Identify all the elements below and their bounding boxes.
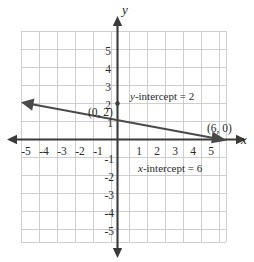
y-intercept-annotation: y-intercept = 2 [129, 90, 194, 102]
y-intercept-point-label: (0, 2) [88, 106, 113, 119]
x-tick-label-5: 5 [208, 145, 214, 157]
y-tick-label--5: -5 [104, 225, 114, 237]
x-intercept-annotation: x-intercept = 6 [137, 162, 203, 174]
x-tick-label-4: 4 [190, 145, 196, 157]
x-tick-label--3: -3 [57, 145, 67, 157]
y-axis-arrow-down [113, 248, 122, 258]
y-tick-label-3: 3 [105, 81, 111, 93]
graph-canvas: y x -5 -4 -3 -2 -1 1 2 3 4 5 5 4 3 2 1 -… [0, 0, 254, 262]
x-tick-label-3: 3 [172, 145, 178, 157]
y-axis-arrow-up [113, 16, 122, 26]
y-tick-label--2: -2 [104, 171, 114, 183]
x-intercept-annotation-rest: -intercept = 6 [143, 162, 203, 174]
x-tick-label-1: 1 [136, 145, 142, 157]
coordinate-plane-figure: y x -5 -4 -3 -2 -1 1 2 3 4 5 5 4 3 2 1 -… [0, 0, 254, 262]
y-tick-label--1: -1 [104, 153, 114, 165]
y-tick-label--4: -4 [104, 207, 114, 219]
x-axis-label: x [240, 132, 247, 147]
x-axis-arrow-left [7, 135, 17, 144]
x-tick-label--1: -1 [93, 145, 103, 157]
x-tick-label-2: 2 [154, 145, 160, 157]
y-tick-label--3: -3 [104, 189, 114, 201]
y-intercept-point [115, 101, 119, 105]
y-tick-label-4: 4 [105, 63, 111, 75]
line-arrow-left [21, 99, 35, 111]
y-intercept-annotation-rest: -intercept = 2 [135, 90, 194, 102]
x-tick-label--4: -4 [39, 145, 49, 157]
y-tick-label-5: 5 [105, 45, 111, 57]
plotted-line [21, 99, 227, 144]
y-axis-label: y [120, 2, 128, 17]
y-tick-label-1: 1 [107, 117, 113, 129]
x-tick-label--5: -5 [21, 145, 31, 157]
grid-lines [21, 31, 227, 243]
x-tick-label--2: -2 [75, 145, 85, 157]
x-intercept-point-label: (6, 0) [207, 122, 232, 135]
